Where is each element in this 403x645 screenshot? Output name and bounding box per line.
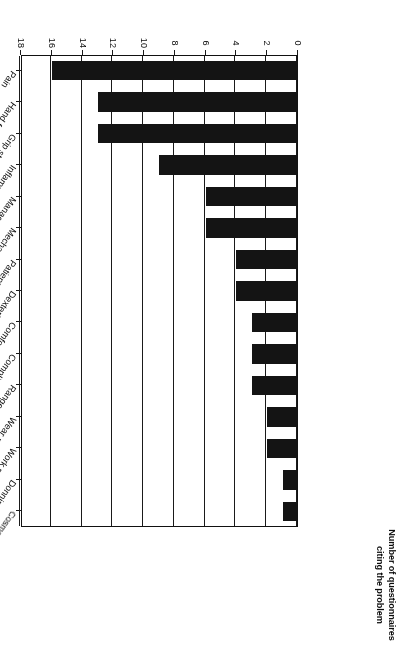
- bar-row: [21, 149, 298, 180]
- value-axis-label: 10: [139, 28, 149, 58]
- bar-row: [21, 370, 298, 401]
- category-axis-tick: [16, 510, 21, 511]
- bar: [252, 376, 298, 396]
- bar: [160, 155, 299, 175]
- bar: [206, 218, 298, 238]
- bar: [283, 470, 298, 490]
- bar-row: [21, 401, 298, 432]
- category-axis-tick: [16, 70, 21, 71]
- category-axis-label: Comfort: [0, 321, 18, 354]
- bar-row: [21, 86, 298, 117]
- category-axis-tick: [16, 164, 21, 165]
- value-axis-label: 4: [231, 28, 241, 58]
- category-axis-tick: [16, 321, 21, 322]
- category-axis-tick: [16, 101, 21, 102]
- bar: [267, 439, 298, 459]
- category-axis-tick: [16, 290, 21, 291]
- category-axis-tick: [16, 196, 21, 197]
- category-axis-tick: [16, 479, 21, 480]
- value-axis-label: 2: [262, 28, 272, 58]
- value-axis-label: 8: [170, 28, 180, 58]
- value-axis-label: 14: [78, 28, 88, 58]
- bar: [236, 250, 298, 270]
- value-axis-label: 0: [293, 28, 303, 58]
- bar: [98, 92, 298, 112]
- bar: [98, 124, 298, 144]
- category-axis-label: Cosmetic acceptability: [0, 509, 18, 590]
- bar: [267, 407, 298, 427]
- value-axis-label: 12: [108, 28, 118, 58]
- category-axis-tick: [16, 259, 21, 260]
- category-axis-tick: [16, 416, 21, 417]
- bar: [283, 502, 298, 522]
- bar-row: [21, 181, 298, 212]
- bars-layer: [21, 55, 298, 527]
- category-axis-label: Pain: [0, 69, 18, 90]
- bar-row: [21, 118, 298, 149]
- bar-row: [21, 496, 298, 527]
- bar: [236, 281, 298, 301]
- value-axis-title-line-2: citing the problem: [374, 525, 386, 645]
- bar-row: [21, 307, 298, 338]
- value-axis: 024681012141618: [21, 15, 298, 55]
- value-axis-label: 6: [201, 28, 211, 58]
- bar-row: [21, 55, 298, 86]
- bar: [252, 344, 298, 364]
- category-axis-tick: [16, 447, 21, 448]
- category-axis-tick: [16, 227, 21, 228]
- value-axis-label: 18: [16, 28, 26, 58]
- bar-row: [21, 212, 298, 243]
- value-axis-title: Number of questionnaires citing the prob…: [369, 525, 397, 645]
- value-axis-label: 16: [47, 28, 57, 58]
- bar-row: [21, 464, 298, 495]
- category-axis: PainHand functionGrip strengthInflammati…: [0, 55, 21, 527]
- category-axis-tick: [16, 133, 21, 134]
- bar: [206, 187, 298, 207]
- bar-row: [21, 244, 298, 275]
- bar: [52, 61, 298, 81]
- bar: [252, 313, 298, 333]
- category-axis-tick: [16, 384, 21, 385]
- value-axis-title-line-1: Number of questionnaires: [386, 525, 398, 645]
- category-axis-tick: [16, 353, 21, 354]
- bar-row: [21, 338, 298, 369]
- bar-row: [21, 275, 298, 306]
- bar-row: [21, 433, 298, 464]
